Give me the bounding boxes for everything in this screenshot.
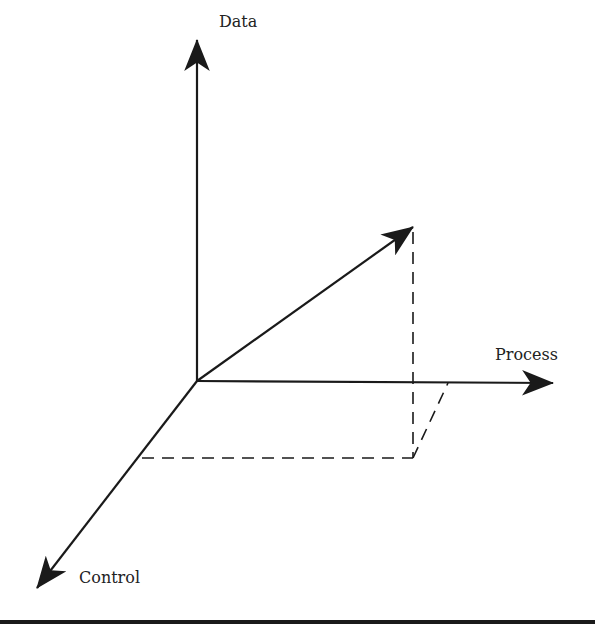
- axes-diagram: [0, 0, 595, 633]
- process-projection: [413, 383, 448, 458]
- resultant-vector: [197, 227, 413, 381]
- data-axis-label: Data: [219, 12, 257, 31]
- bottom-rule: [0, 620, 595, 624]
- process-axis: [197, 381, 553, 383]
- control-axis: [37, 381, 197, 588]
- projection-lines: [142, 232, 448, 458]
- control-axis-label: Control: [79, 568, 140, 587]
- process-axis-label: Process: [495, 345, 558, 364]
- diagram-canvas: Data Process Control: [0, 0, 595, 633]
